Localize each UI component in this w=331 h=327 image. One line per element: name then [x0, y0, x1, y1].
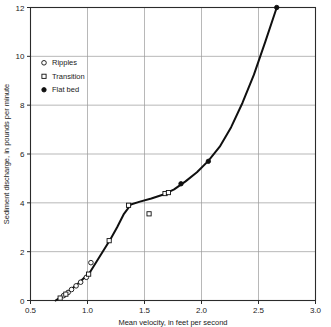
sediment-discharge-chart: 0.51.01.52.02.53.0024681012Mean velocity…: [0, 0, 331, 327]
data-point-transition: [166, 190, 170, 194]
data-point-transition: [126, 203, 130, 207]
data-point-transition: [147, 212, 151, 216]
y-tick-label: 4: [20, 199, 25, 208]
data-point-transition: [64, 292, 68, 296]
y-tick-label: 8: [20, 101, 25, 110]
legend-label-ripples: Ripples: [52, 58, 77, 67]
x-tick-label: 1.5: [139, 306, 151, 315]
data-point-ripples: [74, 284, 79, 289]
legend-marker-flat-bed: [42, 88, 46, 92]
x-tick-label: 1.0: [82, 306, 94, 315]
y-tick-label: 2: [20, 248, 25, 257]
x-axis-title: Mean velocity, in feet per second: [118, 318, 227, 327]
legend-label-transition: Transition: [52, 72, 85, 81]
data-point-transition: [87, 272, 91, 276]
chart-canvas: 0.51.01.52.02.53.0024681012Mean velocity…: [0, 0, 331, 327]
legend-label-flat-bed: Flat bed: [52, 85, 79, 94]
legend-marker-transition: [42, 74, 46, 78]
y-axis-title: Sediment discharge, in pounds per minute: [2, 84, 11, 225]
y-tick-label: 12: [16, 4, 25, 13]
data-point-transition: [58, 296, 62, 300]
x-tick-label: 2.0: [196, 306, 208, 315]
y-tick-label: 6: [20, 150, 25, 159]
data-point-ripples: [89, 260, 94, 265]
y-tick-label: 0: [20, 297, 25, 306]
x-tick-label: 0.5: [25, 306, 37, 315]
data-point-ripples: [78, 280, 83, 285]
data-point-ripples: [69, 287, 74, 292]
y-tick-label: 10: [16, 52, 25, 61]
data-point-flat-bed: [275, 5, 279, 9]
x-tick-label: 2.5: [253, 306, 265, 315]
data-point-flat-bed: [206, 159, 210, 163]
data-point-flat-bed: [179, 182, 183, 186]
data-point-transition: [107, 239, 111, 243]
legend-marker-ripples: [42, 61, 47, 66]
x-tick-label: 3.0: [310, 306, 322, 315]
